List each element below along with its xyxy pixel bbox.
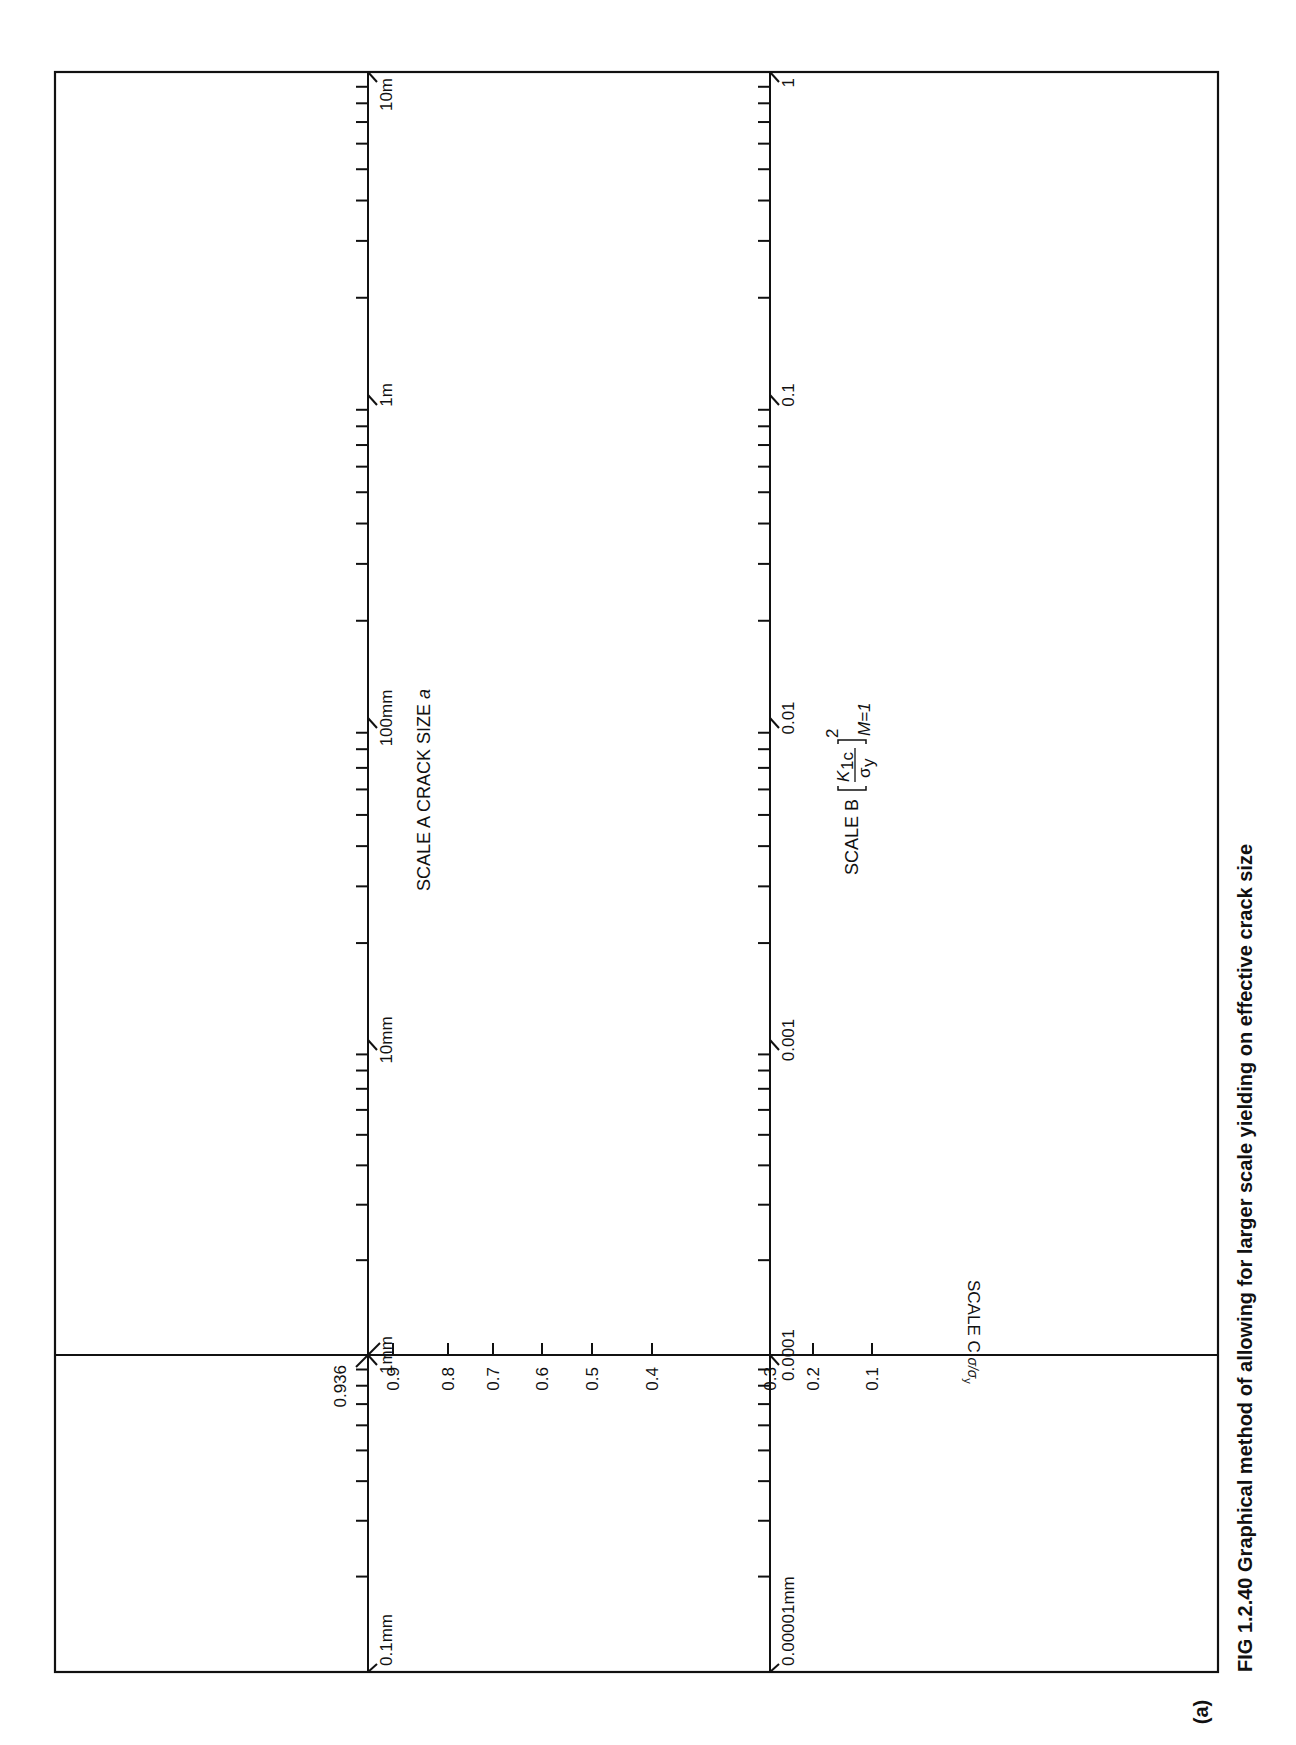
scale-b-decade-label: 0.1 <box>779 383 798 407</box>
scale-a-decade-mark <box>368 1355 377 1365</box>
scale-b-decade-mark <box>770 1355 779 1365</box>
scale-a-decade-label: 0.1mm <box>377 1614 396 1666</box>
scale-b-title-group: SCALE B K 1c σ y 2 M=1 <box>823 702 878 875</box>
scale-b-decade-mark <box>770 1664 779 1672</box>
scale-a-decade-label: 1m <box>377 383 396 407</box>
formula-power: 2 <box>823 729 842 738</box>
scale-c-axis: 0.90.80.70.60.50.40.30.20.1 <box>55 1343 1218 1391</box>
scale-b-decade-label: 1 <box>779 78 798 87</box>
scale-c-title: SCALE C σ/σy <box>962 1280 983 1384</box>
scale-c-tick-label: 0.3 <box>761 1367 780 1391</box>
figure-caption: FIG 1.2.40 Graphical method of allowing … <box>1234 844 1256 1672</box>
caption-group: FIG 1.2.40 Graphical method of allowing … <box>1234 844 1256 1672</box>
scale-b-decade-mark <box>770 718 779 728</box>
formula-condition: M=1 <box>855 702 874 736</box>
scale-a-decade-label: 10m <box>377 78 396 111</box>
scale-a-title-group: SCALE A CRACK SIZE a <box>414 689 434 891</box>
panel-label-group: (a) <box>1190 1700 1212 1724</box>
panel-label: (a) <box>1190 1700 1212 1724</box>
scale-c-title-group: SCALE C σ/σy <box>962 1280 983 1384</box>
scale-a-decade-mark <box>368 395 377 405</box>
scale-b-formula: K 1c σ y 2 M=1 <box>823 702 878 790</box>
scale-a-title: SCALE A CRACK SIZE a <box>414 689 434 891</box>
scale-b-decade-label: 0.00001mm <box>779 1576 798 1666</box>
formula-numerator: K <box>834 770 853 782</box>
scale-a-decade-mark <box>368 72 377 82</box>
intersection-value-label: 0.936 <box>331 1365 350 1408</box>
scale-b-axis: 10.10.010.0010.00010.00001mm <box>758 72 798 1672</box>
formula-denominator: σ <box>855 767 874 778</box>
scale-a-decade-label: 10mm <box>377 1016 396 1063</box>
scale-c-tick-label: 0.7 <box>484 1367 503 1391</box>
scale-b-title: SCALE B <box>842 799 862 875</box>
scale-c-tick-label: 0.8 <box>439 1367 458 1391</box>
frame-border <box>55 72 1218 1672</box>
scale-a-decade-mark <box>368 1664 377 1672</box>
scale-c-tick-label: 0.4 <box>643 1367 662 1391</box>
scale-b-decade-mark <box>770 395 779 405</box>
scale-c-tick-label: 0.5 <box>583 1367 602 1391</box>
scale-a-decade-mark <box>368 718 377 728</box>
scale-a-decade-label: 100mm <box>377 690 396 747</box>
scale-a-axis: 10m1m100mm10mm1mm0.1mm0.936 <box>331 72 396 1672</box>
scale-b-decade-mark <box>770 1040 779 1050</box>
scale-b-decade-mark <box>770 72 779 82</box>
scale-b-decade-label: 0.01 <box>779 701 798 734</box>
scale-c-tick-label: 0.2 <box>804 1367 823 1391</box>
formula-numerator-sub: 1c <box>838 752 857 770</box>
scale-c-tick-label: 0.9 <box>384 1367 403 1391</box>
scale-c-tick-label: 0.1 <box>863 1367 882 1391</box>
diagram-frame <box>55 72 1218 1672</box>
formula-denominator-sub: y <box>859 758 878 767</box>
scale-b-decade-label: 0.001 <box>779 1019 798 1062</box>
scale-a-decade-mark <box>368 1040 377 1050</box>
scale-c-tick-label: 0.6 <box>533 1367 552 1391</box>
nomogram-diagram: 10m1m100mm10mm1mm0.1mm0.936 10.10.010.00… <box>0 0 1296 1745</box>
